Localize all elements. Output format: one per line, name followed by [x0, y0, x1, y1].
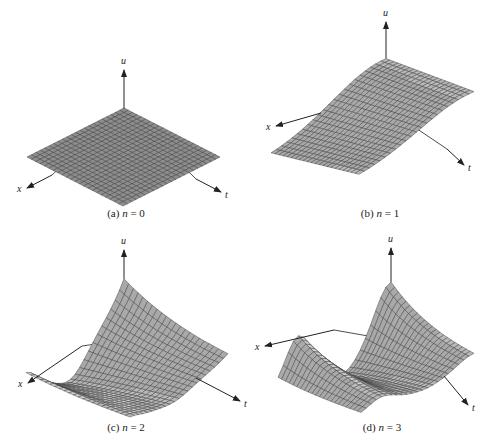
surface-mesh-d — [278, 282, 474, 412]
u-axis-label: u — [388, 233, 393, 244]
surface-mesh-a — [27, 108, 220, 206]
caption-d-eq: = 3 — [384, 421, 401, 433]
panel-a-n0-surface: uxt — [16, 55, 228, 206]
t-axis-arrow — [447, 149, 464, 165]
caption-b: (b) n = 1 — [361, 207, 399, 219]
panel-c-n2-surface: uxt — [17, 235, 247, 417]
u-axis-label: u — [383, 7, 388, 18]
x-axis-label: x — [17, 378, 23, 389]
t-axis-arrow — [196, 378, 240, 401]
u-axis-label: u — [121, 55, 126, 66]
x-axis-label: x — [16, 183, 22, 194]
surface-mesh-b — [271, 59, 474, 175]
t-axis-label: t — [468, 162, 471, 173]
caption-b-prefix: (b) — [361, 207, 374, 219]
t-axis-label: t — [244, 398, 247, 409]
caption-d-prefix: (d) — [363, 421, 376, 433]
caption-a: (a) n = 0 — [107, 207, 145, 219]
t-axis-label: t — [472, 402, 475, 413]
panel-b-n1-surface: uxt — [265, 7, 474, 174]
t-axis-arrow — [444, 376, 468, 405]
surface-mesh-c — [26, 279, 228, 417]
caption-a-eq: = 0 — [128, 207, 145, 219]
panel-d-n3-surface: uxt — [254, 233, 475, 413]
caption-c-eq: = 2 — [128, 421, 145, 433]
t-axis-label: t — [225, 189, 228, 200]
caption-a-prefix: (a) — [107, 207, 119, 219]
caption-c: (c) n = 2 — [107, 421, 145, 433]
figure-canvas: uxt uxt uxt uxt — [0, 0, 491, 441]
x-axis-arrow — [27, 175, 52, 188]
x-axis-label: x — [265, 121, 271, 132]
caption-b-eq: = 1 — [382, 207, 399, 219]
u-axis-label: u — [121, 235, 126, 246]
t-axis-arrow — [196, 179, 221, 192]
x-axis-label: x — [254, 341, 260, 352]
caption-c-prefix: (c) — [107, 421, 119, 433]
caption-d: (d) n = 3 — [363, 421, 401, 433]
